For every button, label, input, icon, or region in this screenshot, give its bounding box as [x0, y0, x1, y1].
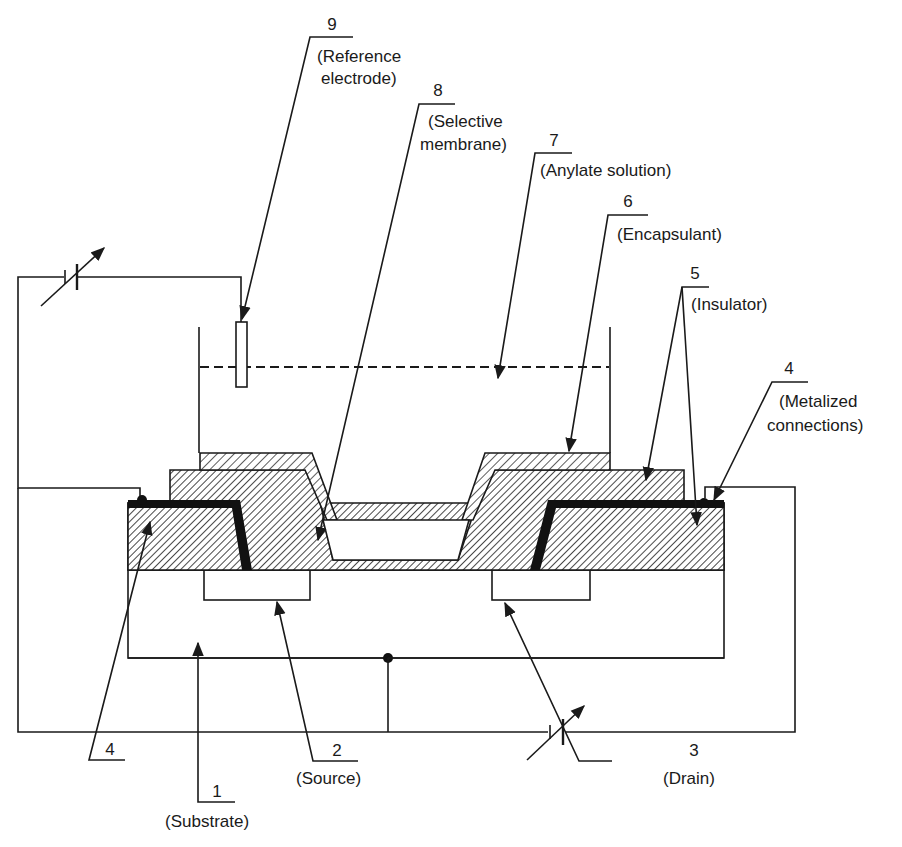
label-3: 3 (Drain): [663, 741, 715, 788]
isfet-diagram: 9 (Reference electrode) 8 (Selective mem…: [0, 0, 902, 847]
svg-text:(Encapsulant): (Encapsulant): [617, 225, 722, 244]
svg-text:5: 5: [690, 264, 699, 283]
source-region: [204, 570, 310, 600]
label-4-left: 4: [105, 740, 114, 759]
svg-text:(Metalized: (Metalized: [779, 392, 857, 411]
label-7: 7 (Anylate solution): [540, 131, 671, 180]
solution-container: [199, 327, 610, 453]
label-5: 5 (Insulator): [690, 264, 767, 314]
label-4-right: 4 (Metalized connections): [767, 359, 863, 435]
label-6: 6 (Encapsulant): [617, 192, 722, 244]
svg-text:4: 4: [784, 359, 793, 378]
label-2: 2 (Source): [296, 741, 361, 788]
svg-text:(Substrate): (Substrate): [165, 812, 249, 831]
svg-text:2: 2: [332, 741, 341, 760]
svg-text:9: 9: [327, 15, 336, 34]
svg-text:connections): connections): [767, 416, 863, 435]
svg-text:7: 7: [549, 131, 558, 150]
svg-text:1: 1: [212, 782, 221, 801]
svg-text:6: 6: [623, 192, 632, 211]
svg-text:(Source): (Source): [296, 769, 361, 788]
svg-text:(Insulator): (Insulator): [691, 295, 768, 314]
label-9: 9 (Reference electrode): [317, 15, 401, 88]
selective-membrane: [323, 520, 469, 560]
label-8: 8 (Selective membrane): [420, 81, 507, 154]
svg-text:4: 4: [105, 740, 114, 759]
svg-text:(Selective: (Selective: [428, 112, 503, 131]
svg-text:membrane): membrane): [420, 135, 507, 154]
svg-text:(Reference: (Reference: [317, 47, 401, 66]
drain-region: [492, 570, 590, 600]
reference-electrode: [236, 322, 247, 387]
label-1: 1 (Substrate): [165, 782, 249, 831]
svg-text:8: 8: [433, 81, 442, 100]
svg-text:(Anylate solution): (Anylate solution): [540, 161, 671, 180]
svg-text:3: 3: [689, 741, 698, 760]
svg-text:(Drain): (Drain): [663, 769, 715, 788]
svg-text:electrode): electrode): [321, 69, 397, 88]
